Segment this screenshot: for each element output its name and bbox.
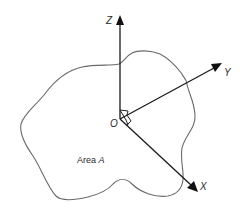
coordinate-area-diagram: Z Y X O Area A: [0, 0, 241, 211]
area-label-prefix: Area: [77, 155, 99, 165]
y-axis-label: Y: [224, 67, 232, 78]
y-axis-arrowhead: [211, 63, 222, 72]
z-axis-label: Z: [105, 15, 113, 26]
x-axis-label: X: [199, 181, 207, 192]
origin-label: O: [110, 118, 118, 129]
right-angle-marker-yx: [126, 115, 131, 126]
area-outline: [21, 51, 195, 200]
z-axis-arrowhead: [116, 15, 124, 25]
area-label-symbol: A: [98, 155, 105, 165]
x-axis-line: [120, 119, 191, 185]
y-axis-line: [120, 68, 214, 119]
area-label: Area A: [77, 155, 105, 165]
